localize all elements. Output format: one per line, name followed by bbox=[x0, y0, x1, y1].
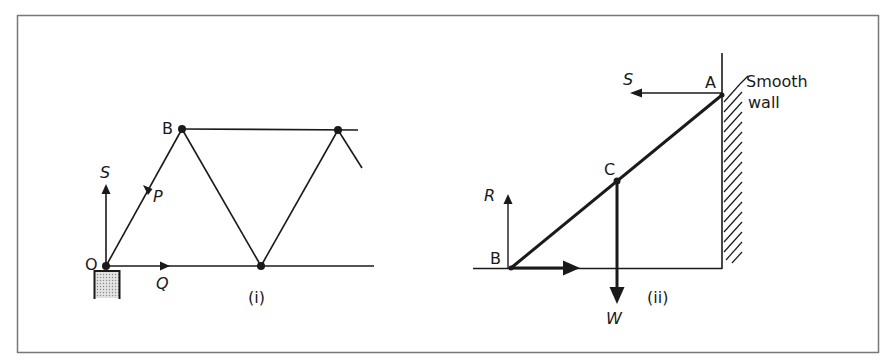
wall-label-line1: Smooth bbox=[746, 72, 808, 91]
label-force-S-ii: S bbox=[623, 70, 633, 89]
point-A bbox=[720, 93, 725, 98]
joint-O bbox=[102, 262, 110, 270]
label-force-P: P bbox=[153, 187, 163, 206]
joint-top-right bbox=[334, 126, 342, 134]
figure-frame bbox=[18, 16, 879, 353]
diagonal-2 bbox=[182, 129, 261, 266]
label-force-R: R bbox=[484, 186, 495, 205]
force-R-arrowhead-icon bbox=[504, 194, 513, 204]
force-Q-arrowhead-icon bbox=[160, 262, 170, 271]
force-S-ii-arrowhead-icon bbox=[630, 89, 642, 98]
wall-label-line2: wall bbox=[748, 93, 780, 112]
force-W-arrowhead-icon bbox=[610, 287, 625, 304]
caption-ii: (ii) bbox=[647, 288, 668, 307]
label-force-S: S bbox=[100, 163, 110, 182]
label-force-Q: Q bbox=[156, 274, 169, 293]
label-A: A bbox=[705, 73, 716, 92]
label-B: B bbox=[162, 119, 173, 138]
top-chord bbox=[182, 129, 358, 130]
label-O: O bbox=[85, 255, 98, 274]
point-B bbox=[509, 266, 514, 271]
joint-bottom bbox=[257, 262, 265, 270]
label-C: C bbox=[604, 160, 615, 179]
figure: O B S P Q (i) bbox=[0, 0, 892, 362]
force-friction-arrowhead-icon bbox=[563, 261, 580, 276]
label-B-ii: B bbox=[490, 249, 501, 268]
wall-hatching bbox=[724, 84, 742, 263]
caption-i: (i) bbox=[248, 288, 265, 307]
label-force-W: W bbox=[606, 309, 623, 328]
support-block bbox=[95, 271, 119, 298]
diagonal-4 bbox=[338, 130, 362, 168]
force-P-arrowhead-icon bbox=[143, 185, 153, 195]
force-S-arrowhead-icon bbox=[102, 184, 111, 194]
rod-OB bbox=[106, 129, 182, 266]
joint-B bbox=[178, 125, 186, 133]
diagram-i bbox=[106, 129, 374, 266]
diagonal-3 bbox=[261, 130, 338, 266]
